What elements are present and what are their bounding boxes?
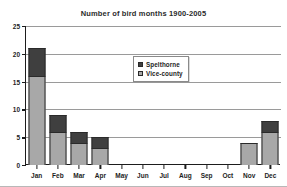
chart-legend: SpelthorneVice-county — [133, 56, 189, 82]
legend-item-label: Vice-county — [146, 70, 183, 77]
bar-segment-vice-county[interactable] — [262, 132, 279, 165]
bar-segment-vice-county[interactable] — [241, 143, 258, 165]
x-tick-label: Apr — [95, 172, 106, 179]
bar-column[interactable]: Apr — [90, 26, 111, 165]
bar-stack[interactable] — [71, 132, 88, 165]
bar-segment-spelthorne[interactable] — [92, 137, 109, 148]
x-tick-label: Nov — [243, 172, 255, 179]
bar-segment-vice-county[interactable] — [92, 148, 109, 165]
x-tick-label: Oct — [222, 172, 233, 179]
legend-item-label: Spelthorne — [146, 61, 180, 68]
y-tick-label: 25 — [13, 23, 20, 30]
plot-area: 0510152025 JanFebMarAprMayJunJulAugSepOc… — [25, 26, 280, 165]
x-tick-mark — [249, 165, 250, 169]
x-tick-mark — [57, 165, 58, 169]
x-tick-label: Sep — [201, 172, 213, 179]
x-tick-label: Aug — [179, 172, 192, 179]
x-tick-label: Mar — [73, 172, 85, 179]
bar-stack[interactable] — [241, 143, 258, 165]
y-tick-mark — [22, 165, 26, 166]
x-tick-mark — [227, 165, 228, 169]
x-tick-mark — [36, 165, 37, 169]
legend-swatch-icon — [138, 62, 143, 67]
bar-column[interactable]: Nov — [239, 26, 260, 165]
bar-column[interactable]: Jun — [132, 26, 153, 165]
bar-stack[interactable] — [49, 115, 66, 165]
x-tick-label: Feb — [52, 172, 64, 179]
x-tick-mark — [79, 165, 80, 169]
bar-column[interactable]: Oct — [217, 26, 238, 165]
y-tick-label: 0 — [16, 162, 20, 169]
x-tick-mark — [121, 165, 122, 169]
bar-stack[interactable] — [28, 48, 45, 165]
y-tick-label: 5 — [16, 134, 20, 141]
bars-layer: JanFebMarAprMayJunJulAugSepOctNovDec — [26, 26, 281, 165]
legend-swatch-icon — [138, 71, 143, 76]
bar-stack[interactable] — [262, 121, 279, 165]
chart-title: Number of bird months 1900-2005 — [0, 9, 287, 18]
x-tick-label: Jul — [159, 172, 168, 179]
bar-column[interactable]: Feb — [47, 26, 68, 165]
bar-segment-spelthorne[interactable] — [262, 121, 279, 132]
bar-column[interactable]: Mar — [69, 26, 90, 165]
bar-column[interactable]: Jul — [154, 26, 175, 165]
x-tick-mark — [142, 165, 143, 169]
bar-segment-vice-county[interactable] — [71, 143, 88, 165]
bar-column[interactable]: May — [111, 26, 132, 165]
x-tick-mark — [206, 165, 207, 169]
y-tick-label: 20 — [13, 50, 20, 57]
x-tick-mark — [270, 165, 271, 169]
bar-column[interactable]: Aug — [175, 26, 196, 165]
bar-chart: Number of bird months 1900-2005 05101520… — [0, 0, 287, 187]
x-tick-label: Jan — [31, 172, 42, 179]
legend-item[interactable]: Spelthorne — [138, 60, 183, 69]
bar-segment-vice-county[interactable] — [49, 132, 66, 165]
x-tick-mark — [185, 165, 186, 169]
y-tick-label: 10 — [13, 106, 20, 113]
legend-item[interactable]: Vice-county — [138, 69, 183, 78]
bar-column[interactable]: Sep — [196, 26, 217, 165]
bar-segment-spelthorne[interactable] — [28, 48, 45, 76]
bar-column[interactable]: Dec — [260, 26, 281, 165]
x-tick-mark — [164, 165, 165, 169]
y-tick-label: 15 — [13, 78, 20, 85]
bar-segment-spelthorne[interactable] — [49, 115, 66, 132]
x-tick-label: Dec — [264, 172, 276, 179]
x-tick-label: May — [115, 172, 128, 179]
bar-segment-spelthorne[interactable] — [71, 132, 88, 143]
bar-stack[interactable] — [92, 137, 109, 165]
x-tick-label: Jun — [137, 172, 149, 179]
x-tick-mark — [100, 165, 101, 169]
bar-segment-vice-county[interactable] — [28, 76, 45, 165]
bar-column[interactable]: Jan — [26, 26, 47, 165]
